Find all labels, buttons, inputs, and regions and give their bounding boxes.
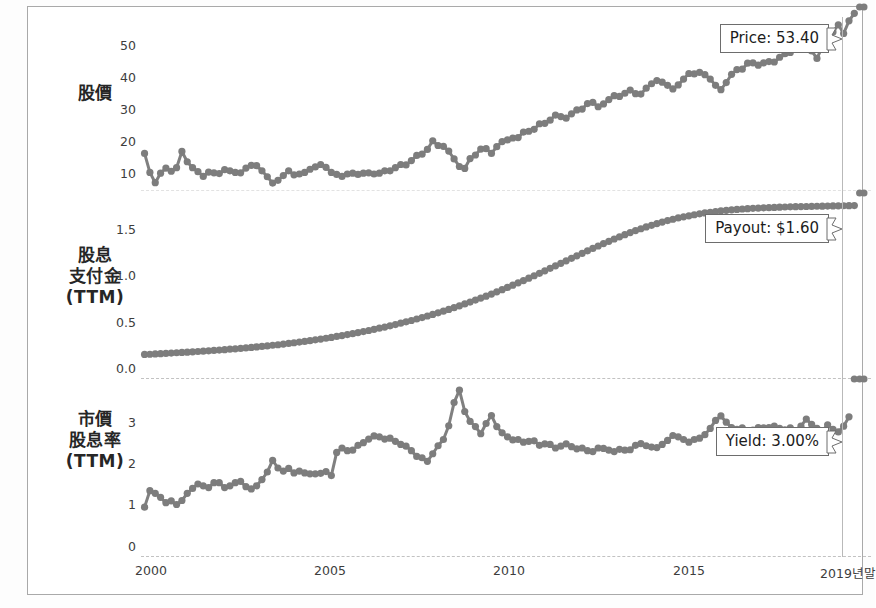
ytick-yield-0: 0 bbox=[128, 539, 136, 554]
ytick-yield-3: 3 bbox=[128, 415, 136, 430]
panel-price: 股價 50 40 30 20 10 Price: 53.40 bbox=[28, 7, 862, 193]
ytick-price-10: 10 bbox=[120, 166, 136, 181]
xtick-2005: 2005 bbox=[314, 563, 346, 578]
panel-yield-plot bbox=[141, 379, 871, 557]
x-axis: 2000 2005 2010 2015 2019년말 bbox=[141, 563, 871, 581]
ytick-price-20: 20 bbox=[120, 134, 136, 149]
price-callout-text: Price: 53.40 bbox=[730, 29, 819, 47]
payout-callout-text: Payout: $1.60 bbox=[715, 219, 819, 237]
yield-zero-baseline bbox=[141, 556, 871, 557]
price-callout: Price: 53.40 bbox=[720, 24, 829, 53]
ytick-payout-10: 1.0 bbox=[116, 268, 136, 283]
ytick-payout-15: 1.5 bbox=[116, 222, 136, 237]
yield-callout-text: Yield: 3.00% bbox=[726, 432, 819, 450]
ytick-yield-2: 2 bbox=[128, 456, 136, 471]
ytick-price-50: 50 bbox=[120, 38, 136, 53]
ytick-yield-1: 1 bbox=[128, 497, 136, 512]
ytick-price-30: 30 bbox=[120, 102, 136, 117]
xtick-2019-end: 2019년말 bbox=[820, 563, 876, 582]
yield-line-chart bbox=[141, 379, 871, 557]
ytick-price-40: 40 bbox=[120, 70, 136, 85]
ytick-payout-00: 0.0 bbox=[116, 361, 136, 376]
payout-callout: Payout: $1.60 bbox=[705, 214, 829, 243]
panel-payout-yticks: 1.5 1.0 0.5 0.0 bbox=[106, 193, 136, 379]
chart-frame: 股價 50 40 30 20 10 Price: 53.40 bbox=[27, 6, 863, 595]
panel-price-marker-line bbox=[842, 17, 843, 193]
xtick-2000: 2000 bbox=[135, 563, 167, 578]
panel-yield-yticks: 3 2 1 0 bbox=[106, 379, 136, 557]
panel-price-bottom-dash bbox=[141, 190, 871, 191]
yield-callout: Yield: 3.00% bbox=[716, 427, 829, 456]
panel-payout-marker-line bbox=[842, 193, 843, 379]
panel-payout: 股息 支付金 (TTM) 1.5 1.0 0.5 0.0 Payout: $1.… bbox=[28, 193, 862, 379]
xtick-2015: 2015 bbox=[673, 563, 705, 578]
panel-yield: 市價 股息率 (TTM) 3 2 1 0 Yield: 3.00% bbox=[28, 379, 862, 557]
ytick-payout-05: 0.5 bbox=[116, 315, 136, 330]
panel-yield-marker-line bbox=[842, 379, 843, 557]
xtick-2010: 2010 bbox=[493, 563, 525, 578]
panel-price-yticks: 50 40 30 20 10 bbox=[106, 7, 136, 193]
